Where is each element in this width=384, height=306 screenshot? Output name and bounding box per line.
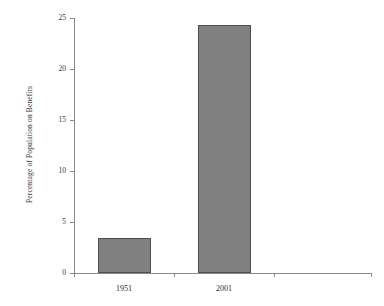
x-axis-category-label: 1951 [74, 284, 174, 293]
y-axis-tick-mark [70, 120, 75, 121]
x-axis-tick-mark [174, 273, 175, 277]
y-axis-tick-label: 25 [59, 13, 67, 22]
y-axis-line [74, 18, 75, 273]
x-axis-category-label: 2001 [174, 284, 274, 293]
x-axis-tick-mark [274, 273, 275, 277]
y-axis-title: Percentage of Population on Benefits [25, 55, 34, 235]
bar [98, 238, 151, 273]
y-axis-tick-mark [70, 69, 75, 70]
y-axis-tick-mark [70, 18, 75, 19]
bar [198, 25, 251, 273]
y-axis-tick-label: 15 [59, 115, 67, 124]
y-axis-tick-mark [70, 222, 75, 223]
y-axis-tick-mark [70, 171, 75, 172]
x-axis-line [74, 273, 372, 274]
plot-area: 0510152025 19512001 [74, 18, 372, 273]
y-axis-tick-label: 5 [62, 217, 66, 226]
bar-chart: Percentage of Population on Benefits 051… [0, 0, 384, 306]
y-axis-tick-label: 10 [59, 166, 67, 175]
x-axis-tick-mark [371, 273, 372, 277]
y-axis-tick-label: 20 [59, 64, 67, 73]
y-axis-tick-label: 0 [62, 268, 66, 277]
x-axis-tick-mark [74, 273, 75, 277]
